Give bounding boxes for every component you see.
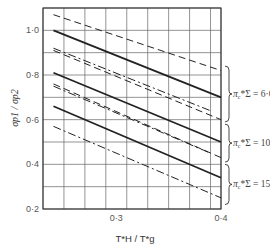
plot-frame (43, 8, 221, 209)
brace-icon (225, 164, 232, 204)
series-line (53, 15, 221, 71)
brace-icon (225, 124, 232, 162)
series-line (53, 126, 221, 197)
x-tick-label: 0·4 (214, 213, 227, 223)
series-line (53, 50, 221, 119)
series-line (53, 73, 221, 142)
series-line (53, 30, 221, 97)
svg-text:σp1 / σp2: σp1 / σp2 (9, 89, 20, 127)
series-line (53, 84, 221, 158)
group-label: πc*Σ = 15 (233, 179, 270, 190)
chart: 1·00·80·60·40·2 0·30·4 σp1 / σp2 T*H / T… (0, 0, 270, 249)
y-tick-label: 0·2 (26, 204, 39, 214)
brace-icon (225, 66, 232, 122)
group-label: πc*Σ = 6·0 (233, 89, 270, 100)
x-tick-label: 0·3 (110, 213, 123, 223)
y-axis-ticks: 1·00·80·60·40·2 (26, 25, 39, 214)
grid (43, 8, 221, 209)
series-line (53, 48, 210, 111)
y-tick-label: 0·8 (26, 70, 39, 80)
x-axis-label: T*H / T*g (116, 233, 155, 244)
series-lines (53, 15, 221, 198)
y-axis-label: σp1 / σp2 (9, 89, 20, 127)
y-tick-label: 0·4 (26, 159, 39, 169)
y-tick-label: 0·6 (26, 115, 39, 125)
group-label: πc*Σ = 10 (233, 138, 270, 149)
y-tick-label: 1·0 (26, 25, 39, 35)
group-brackets: πc*Σ = 6·0πc*Σ = 10πc*Σ = 15 (225, 66, 270, 204)
x-axis-ticks: 0·30·4 (110, 213, 228, 223)
